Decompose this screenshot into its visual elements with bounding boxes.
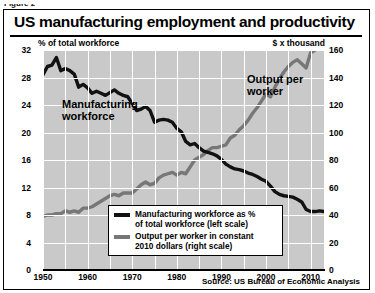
- y-axis-left-tick-label: 28: [7, 73, 31, 83]
- y-axis-right-tick-label: 20: [329, 238, 355, 248]
- figure-label: Figure 2: [4, 0, 35, 8]
- x-axis-tick-label: 1980: [167, 272, 186, 282]
- y-axis-left-tick-label: 16: [7, 155, 31, 165]
- chart-frame: US manufacturing employment and producti…: [3, 9, 370, 290]
- chart-legend: Manufacturing workforce as % of total wo…: [108, 205, 283, 256]
- y-axis-right-tick-label: 0: [329, 265, 355, 275]
- y-axis-left-tick-label: 12: [7, 183, 31, 193]
- chart-source: Source: US Bureau of Economic Analysis: [202, 277, 360, 286]
- legend-item-output: Output per worker in constant 2010 dolla…: [114, 232, 277, 251]
- y-axis-right-tick-label: 160: [329, 45, 355, 55]
- gridline-horizontal: [43, 133, 324, 134]
- y-axis-right-tick-label: 100: [329, 128, 355, 138]
- x-axis-tick-label: 1970: [123, 272, 142, 282]
- y-axis-right-tick-label: 120: [329, 100, 355, 110]
- y-axis-left-tick-label: 32: [7, 45, 31, 55]
- gridline-horizontal: [43, 50, 324, 51]
- chart-title: US manufacturing employment and producti…: [14, 13, 355, 31]
- x-axis-tick-label: 1960: [78, 272, 97, 282]
- gridline-horizontal: [43, 188, 324, 189]
- y-axis-left-tick-label: 20: [7, 128, 31, 138]
- gridline-horizontal: [43, 160, 324, 161]
- y-axis-right-tick-label: 80: [329, 155, 355, 165]
- legend-item-manufacturing: Manufacturing workforce as % of total wo…: [114, 210, 277, 229]
- series-label-output: Output per worker: [247, 73, 303, 97]
- legend-swatch-manufacturing: [114, 213, 130, 217]
- y-axis-left-tick-label: 24: [7, 100, 31, 110]
- series-label-manufacturing: Manufacturing workforce: [62, 98, 138, 122]
- y-axis-left-tick-label: 8: [7, 210, 31, 220]
- y-axis-right-tick-label: 60: [329, 183, 355, 193]
- legend-label-manufacturing: Manufacturing workforce as % of total wo…: [135, 210, 255, 229]
- left-axis-unit-label: % of total workforce: [38, 38, 119, 48]
- x-axis-tick-label: 1950: [34, 272, 53, 282]
- right-axis-unit-label: $ x thousand: [273, 38, 325, 48]
- y-axis-left-tick-label: 0: [7, 265, 31, 275]
- legend-swatch-output: [114, 235, 130, 239]
- y-axis-left-tick-label: 4: [7, 238, 31, 248]
- x-axis-line: [43, 269, 325, 271]
- y-axis-right-tick-label: 140: [329, 73, 355, 83]
- title-divider: [10, 35, 362, 37]
- legend-label-output: Output per worker in constant 2010 dolla…: [135, 232, 253, 251]
- y-axis-right-tick-label: 40: [329, 210, 355, 220]
